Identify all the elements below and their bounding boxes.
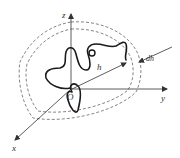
y-axis-label: y: [160, 93, 165, 103]
diagram-canvas: z y x O h dh: [0, 0, 180, 158]
z-axis-label: z: [61, 10, 66, 20]
irregular-body-curve: [46, 42, 127, 112]
diagram-svg: z y x O h dh: [0, 0, 180, 158]
radius-h-label: h: [97, 62, 102, 72]
thickness-dh-label: dh: [146, 54, 154, 63]
dh-arrow: [139, 47, 172, 62]
origin-label: O: [67, 92, 74, 102]
x-axis: [15, 89, 71, 140]
x-axis-label: x: [11, 143, 16, 153]
outer-dashed-shell: [19, 22, 141, 120]
small-loop: [89, 50, 95, 56]
